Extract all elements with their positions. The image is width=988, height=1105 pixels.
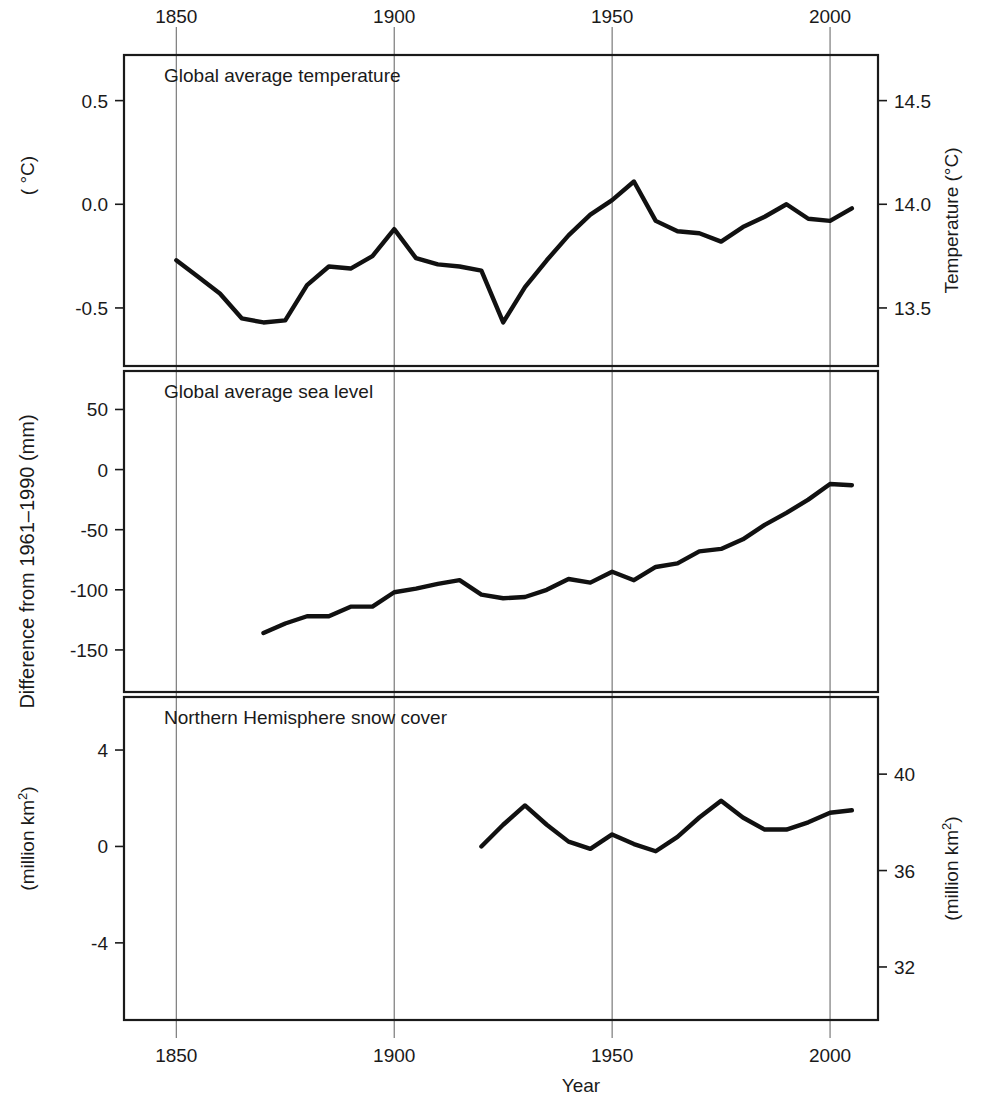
x-tick-label-top-2000: 2000 [809, 6, 851, 27]
left-tick-label-sea-level-3: -100 [70, 580, 108, 601]
right-tick-label-snow-cover-1: 36 [894, 861, 915, 882]
x-tick-label-bottom-2000: 2000 [809, 1045, 851, 1066]
right-tick-label-snow-cover-2: 32 [894, 957, 915, 978]
panel-title-snow-cover: Northern Hemisphere snow cover [164, 707, 448, 728]
climate-indicators-figure: 18501900195020001850190019502000YearGlob… [0, 0, 988, 1105]
data-line-snow-cover [481, 801, 851, 852]
left-tick-label-sea-level-4: -150 [70, 640, 108, 661]
left-tick-label-snow-cover-1: 0 [97, 836, 108, 857]
left-axis-title-temperature: ( °C) [17, 156, 38, 195]
x-tick-label-top-1900: 1900 [373, 6, 415, 27]
figure-canvas: 18501900195020001850190019502000YearGlob… [0, 0, 988, 1105]
left-axis-title-snow-cover: (million km2) [15, 786, 39, 890]
panel-title-sea-level: Global average sea level [164, 381, 373, 402]
x-tick-label-bottom-1850: 1850 [155, 1045, 197, 1066]
left-tick-label-temperature-0: 0.5 [82, 91, 108, 112]
panel-title-temperature: Global average temperature [164, 65, 401, 86]
x-tick-label-top-1850: 1850 [155, 6, 197, 27]
left-tick-label-temperature-2: -0.5 [75, 298, 108, 319]
left-tick-label-sea-level-0: 50 [87, 399, 108, 420]
right-axis-title-temperature: Temperature (°C) [941, 148, 962, 294]
x-tick-label-bottom-1900: 1900 [373, 1045, 415, 1066]
right-tick-label-temperature-2: 13.5 [894, 298, 931, 319]
x-tick-label-top-1950: 1950 [591, 6, 633, 27]
data-line-sea-level [263, 484, 851, 633]
right-tick-label-temperature-1: 14.0 [894, 194, 931, 215]
left-tick-label-temperature-1: 0.0 [82, 194, 108, 215]
right-tick-label-snow-cover-0: 40 [894, 764, 915, 785]
x-tick-label-bottom-1950: 1950 [591, 1045, 633, 1066]
left-axis-title-sea-level: Difference from 1961–1990 (mm) [16, 414, 38, 708]
data-line-temperature [176, 181, 852, 322]
panel-frame-snow-cover [124, 697, 878, 1020]
left-tick-label-sea-level-1: 0 [97, 460, 108, 481]
right-axis-title-snow-cover: (million km2) [939, 816, 963, 920]
left-tick-label-sea-level-2: -50 [81, 520, 108, 541]
panel-frame-sea-level [124, 371, 878, 692]
left-tick-label-snow-cover-0: 4 [97, 740, 108, 761]
left-tick-label-snow-cover-2: -4 [91, 933, 108, 954]
right-tick-label-temperature-0: 14.5 [894, 91, 931, 112]
x-axis-title: Year [562, 1075, 601, 1096]
